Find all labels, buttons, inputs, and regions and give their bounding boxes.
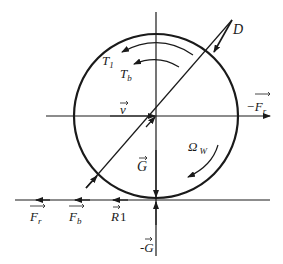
label-Tb: Tb	[120, 66, 132, 83]
svg-text:v: v	[120, 102, 126, 117]
label-R1: R1	[110, 205, 126, 224]
label-Fb: Fb	[68, 204, 84, 226]
svg-text:R1: R1	[110, 209, 126, 224]
label-D: D	[232, 22, 243, 37]
diameter-arrow-top	[214, 20, 232, 52]
label-Fr: Fr	[29, 204, 45, 226]
svg-text:Fr: Fr	[29, 209, 42, 226]
diameter-line	[86, 20, 232, 188]
center-diag-arrow	[146, 117, 155, 127]
svg-text:G: G	[137, 159, 147, 174]
label-omega-w: ΩW	[188, 139, 208, 156]
label-G: G	[137, 156, 147, 174]
svg-text:−Fr: −Fr	[246, 99, 267, 116]
label-neg-G: -G	[140, 237, 154, 255]
wheel-force-diagram: D T1 Tb v −Fr G ΩW Fr Fb R1 -G	[0, 0, 283, 264]
svg-text:-G: -G	[140, 240, 154, 255]
label-T1: T1	[102, 53, 114, 70]
label-v: v	[120, 101, 128, 117]
svg-text:Fb: Fb	[68, 209, 82, 226]
label-neg-Fr: −Fr	[246, 92, 270, 116]
T1-arc	[122, 43, 193, 55]
diameter-arrow-bottom	[86, 176, 97, 188]
